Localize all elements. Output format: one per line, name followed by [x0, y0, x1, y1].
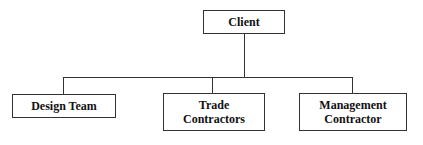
- node-label-line1: Trade: [199, 98, 229, 112]
- connector-root-vertical: [244, 33, 245, 77]
- node-label: Design Team: [31, 99, 97, 113]
- connector-trade-contractors: [212, 77, 213, 93]
- node-label: Client: [228, 15, 259, 29]
- node-management-contractor: Management Contractor: [299, 93, 407, 131]
- node-design-team: Design Team: [12, 94, 116, 118]
- connector-management-contractor: [352, 77, 353, 93]
- node-label-line2: Contractors: [183, 112, 245, 126]
- node-label-line2: Contractor: [324, 112, 381, 126]
- connector-horizontal: [63, 77, 353, 78]
- node-client: Client: [203, 10, 285, 34]
- node-trade-contractors: Trade Contractors: [163, 93, 265, 131]
- node-label-line1: Management: [319, 98, 386, 112]
- connector-design-team: [63, 77, 64, 94]
